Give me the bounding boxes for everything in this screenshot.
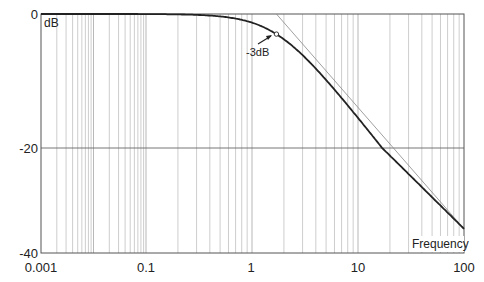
y-tick-label: -20 [19,141,38,156]
x-axis-ticks: 0.0010.1110100 [25,260,475,275]
bode-magnitude-chart: 0-20-40 0.0010.1110100 -3dB dB Frequency [0,0,484,282]
x-tick-label: 0.1 [137,260,155,275]
y-axis-ticks: 0-20-40 [19,7,38,261]
x-tick-label: 100 [453,260,475,275]
y-tick-label: 0 [31,7,38,22]
x-axis-label: Frequency [412,237,469,251]
minus-3db-label: -3dB [246,46,269,58]
x-tick-label: 1 [247,260,254,275]
x-tick-label: 0.001 [25,260,58,275]
y-unit-label: dB [44,16,59,30]
minus-3db-marker [274,32,278,36]
asymptote-line [276,14,464,229]
x-tick-label: 10 [351,260,365,275]
arrow-head-icon [266,35,272,40]
y-tick-label: -40 [19,246,38,261]
